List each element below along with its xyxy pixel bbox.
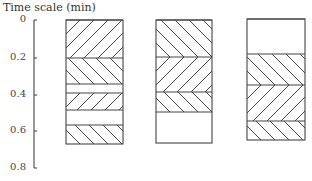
- hatch-band-back: [47, 125, 150, 144]
- hatch-band-back: [40, 58, 164, 84]
- hatch-band-back: [136, 92, 240, 112]
- y-axis: [34, 20, 37, 168]
- column-3: [211, 19, 312, 140]
- hatch-band-back: [228, 121, 312, 140]
- hatch-band-back: [119, 20, 282, 57]
- hatch-band-forward: [211, 85, 312, 121]
- hatch-band-forward: [121, 57, 268, 92]
- column-1: [28, 20, 192, 144]
- hatched-columns-diagram: [0, 0, 312, 181]
- hatch-band-back: [216, 54, 312, 85]
- hatch-band-forward: [49, 93, 150, 110]
